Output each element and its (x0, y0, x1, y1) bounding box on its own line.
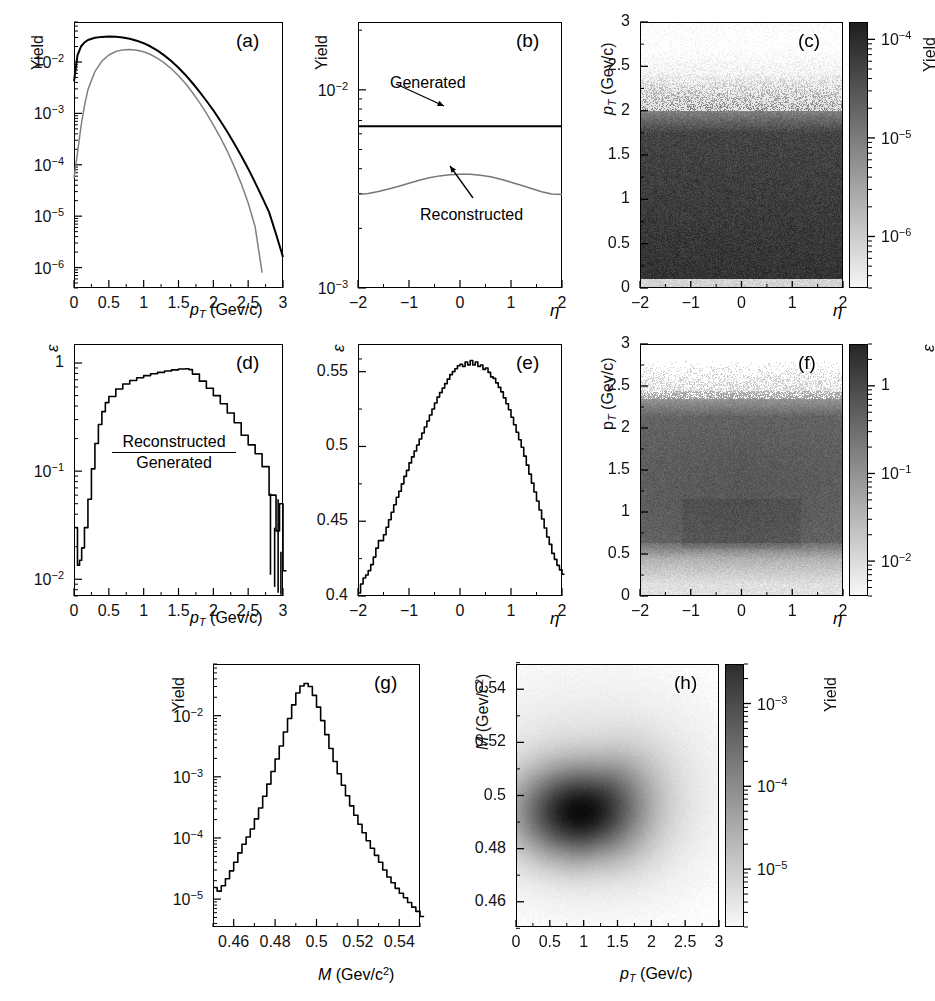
panel-c-axes-xtick: 0 (737, 295, 746, 311)
panel-c-colorbar-ticks-label: 10−4 (881, 30, 911, 48)
panel-c-axes-xtick: 2 (839, 295, 848, 311)
panel-d-ytick: 10−1 (34, 462, 64, 480)
panel-f-axes-ytick: 0 (621, 587, 630, 603)
panel-f-colorbar-ticks-label: 10−1 (881, 464, 911, 482)
panel-h-axes-xtick: 0.5 (539, 934, 561, 950)
panel-b-annotation-reconstructed: Reconstructed (420, 206, 523, 224)
panel-h-colorbar-ticks (744, 664, 754, 927)
panel-b-xtick: −1 (400, 295, 418, 311)
panel-c-colorbar-ticks-label: 10−5 (881, 129, 911, 147)
panel-a-xtick: 1 (139, 295, 148, 311)
panel-a-xtick: 0 (70, 295, 79, 311)
panel-h-axes-ytick: 0.48 (475, 840, 506, 856)
panel-a-xtick: 2.5 (237, 295, 259, 311)
panel-a-ytick: 10−5 (34, 207, 64, 225)
panel-d-xtick: 1 (139, 603, 148, 619)
panel-c-axes-ytick: 2 (621, 102, 630, 118)
panel-h-axes (516, 664, 719, 927)
panel-a-ytick: 10−2 (34, 53, 64, 71)
panel-d-label: (d) (236, 352, 259, 374)
panel-f-axes-xtick: 0 (737, 603, 746, 619)
panel-h-axes-xtick: 3 (715, 934, 724, 950)
panel-a-xtick: 0.5 (98, 295, 120, 311)
panel-f-axes-xtick: −1 (682, 603, 700, 619)
panel-d-ytick: 10−2 (34, 570, 64, 588)
panel-d-fraction-annotation: Reconstructed Generated (112, 432, 236, 473)
panel-f-axes-ytick: 2 (621, 419, 630, 435)
panel-f-axes-ytick: 0.5 (608, 545, 630, 561)
panel-f-colorbar-ticks-label: 1 (881, 377, 890, 393)
panel-g-ytick: 10−2 (173, 707, 203, 725)
panel-e-xtick: 1 (507, 603, 516, 619)
panel-g-ytick: 10−4 (173, 829, 203, 847)
panel-h-colorbar-ticks-label: 10−4 (757, 777, 787, 795)
panel-d-ytick: 1 (55, 354, 64, 370)
panel-b-ytick: 10−2 (318, 81, 348, 99)
panel-h-colorbar-gradient (726, 665, 743, 926)
panel-c-axes-ytick: 0 (621, 279, 630, 295)
panel-c-axes-xtick: −2 (631, 295, 649, 311)
panel-g-xtick: 0.54 (384, 934, 415, 950)
panel-e-xtick: 0 (456, 603, 465, 619)
panel-f-axes-xtick: 2 (839, 603, 848, 619)
panel-c-axes-ytick: 1.5 (608, 146, 630, 162)
panel-f-colorbar-label: ε (920, 345, 935, 352)
panel-b-annotation-generated: Generated (390, 74, 466, 92)
panel-g-ytick: 10−3 (173, 768, 203, 786)
panel-d-xtick: 1.5 (167, 603, 189, 619)
panel-a-plot (74, 22, 283, 288)
panel-g-xtick: 0.48 (260, 934, 291, 950)
panel-c-colorbar-gradient (850, 23, 867, 287)
panel-b-label: (b) (516, 30, 539, 52)
panel-c-colorbar-ticks (868, 22, 878, 288)
panel-g-xtick: 0.52 (342, 934, 373, 950)
panel-h-axes-xtick: 2 (647, 934, 656, 950)
panel-b-xtick: 2 (558, 295, 567, 311)
panel-g-xlabel: M (Gev/c2) (318, 966, 394, 983)
panel-c-axes-ytick: 0.5 (608, 235, 630, 251)
panel-b-ytick: 10−3 (318, 279, 348, 297)
panel-h-axes-xtick: 1.5 (606, 934, 628, 950)
panel-e-ytick: 0.5 (326, 437, 348, 453)
panel-e-xtick: 2 (558, 603, 567, 619)
panel-h-axes-ytick: 0.5 (484, 787, 506, 803)
panel-a-ytick: 10−3 (34, 104, 64, 122)
panel-g-ytick: 10−5 (173, 890, 203, 908)
panel-c-axes-ytick: 2.5 (608, 57, 630, 73)
panel-g-plot (213, 664, 420, 927)
panel-d-xtick: 2.5 (237, 603, 259, 619)
panel-e-ylabel: ε (330, 345, 347, 352)
panel-e-ytick: 0.45 (317, 512, 348, 528)
panel-a-xtick: 3 (279, 295, 288, 311)
panel-e-xtick: −1 (400, 603, 418, 619)
panel-b-plot (358, 22, 562, 288)
panel-c-colorbar-ticks-label: 10−6 (881, 227, 911, 245)
panel-a-ytick: 10−6 (34, 259, 64, 277)
panel-h-colorbar-ticks-label: 10−3 (757, 695, 787, 713)
panel-h-axes-ytick: 0.46 (475, 893, 506, 909)
panel-c-colorbar-label: Yield (922, 37, 935, 72)
panel-b-xtick: 1 (507, 295, 516, 311)
panel-f-axes (640, 344, 843, 596)
panel-d-xtick: 2 (209, 603, 218, 619)
panel-e-label: (e) (516, 352, 539, 374)
panel-a-ytick: 10−4 (34, 156, 64, 174)
panel-d-xtick: 3 (279, 603, 288, 619)
panel-c-axes-xtick: −1 (682, 295, 700, 311)
panel-f-colorbar-gradient (850, 345, 867, 595)
panel-h-axes-xtick: 1 (579, 934, 588, 950)
fraction-numerator: Reconstructed (112, 432, 236, 452)
panel-c-axes-xtick: 1 (788, 295, 797, 311)
panel-f-ylabel: pT (Gev/c) (600, 357, 618, 430)
panel-b-ylabel: Yield (314, 35, 330, 70)
panel-c-axes (640, 22, 843, 288)
panel-g-label: (g) (374, 672, 397, 694)
panel-f-axes-xtick: 1 (788, 603, 797, 619)
panel-f-axes-xtick: −2 (631, 603, 649, 619)
panel-h-axes-xtick: 2.5 (674, 934, 696, 950)
panel-e-ytick: 0.55 (317, 363, 348, 379)
panel-e-ytick: 0.4 (326, 587, 348, 603)
panel-f-colorbar-ticks-label: 10−2 (881, 552, 911, 570)
fraction-denominator: Generated (112, 452, 236, 473)
panel-g-xtick: 0.5 (305, 934, 327, 950)
